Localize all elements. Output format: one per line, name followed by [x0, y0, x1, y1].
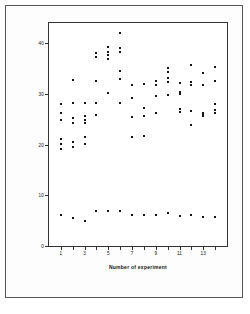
data-point: [214, 109, 216, 111]
x-axis-tick-label: 9: [154, 251, 157, 256]
y-axis-tick-label: 30: [38, 91, 44, 96]
data-point: [143, 83, 145, 85]
x-axis-tick: [132, 246, 133, 250]
data-point: [84, 102, 86, 104]
y-axis-tick: [45, 246, 49, 247]
data-point: [84, 115, 86, 117]
data-point: [119, 210, 121, 212]
x-axis-tick: [96, 246, 97, 250]
data-point: [214, 216, 216, 218]
figure: Na,K−ATPase (μmol/min · mg protein) 0102…: [0, 0, 250, 314]
y-axis-tick-label: 20: [38, 142, 44, 147]
data-point: [190, 110, 192, 112]
data-point: [190, 124, 192, 126]
data-point: [202, 84, 204, 86]
data-point: [214, 103, 216, 105]
data-point: [155, 95, 157, 97]
data-point: [72, 102, 74, 104]
data-point: [72, 122, 74, 124]
data-point: [190, 214, 192, 216]
data-point: [214, 66, 216, 68]
data-point: [95, 52, 97, 54]
y-axis-tick: [45, 195, 49, 196]
data-point: [143, 107, 145, 109]
data-point: [107, 54, 109, 56]
data-point: [167, 77, 169, 79]
data-point: [179, 93, 181, 95]
x-axis-tick: [144, 246, 145, 250]
data-point: [131, 116, 133, 118]
data-point: [72, 79, 74, 81]
data-point: [107, 210, 109, 212]
y-axis-tick: [45, 94, 49, 95]
data-point: [107, 92, 109, 94]
data-point: [131, 136, 133, 138]
data-point: [214, 112, 216, 114]
data-point: [60, 143, 62, 145]
x-axis-tick-label: 11: [177, 251, 182, 256]
x-axis-tick: [61, 246, 62, 250]
x-axis-tick-label: 13: [201, 251, 207, 256]
data-point: [107, 51, 109, 53]
data-point: [95, 80, 97, 82]
x-axis-tick: [180, 246, 181, 250]
data-point: [72, 146, 74, 148]
x-axis-tick-label: 5: [107, 251, 110, 256]
x-axis-tick: [108, 246, 109, 250]
x-axis-tick: [215, 246, 216, 250]
data-point: [60, 214, 62, 216]
data-point: [95, 102, 97, 104]
data-point: [60, 148, 62, 150]
data-point: [119, 102, 121, 104]
x-axis-tick: [203, 246, 204, 250]
data-point: [95, 56, 97, 58]
plot-area: 010203040135791113: [49, 23, 227, 246]
y-axis-tick: [45, 145, 49, 146]
x-axis-tick-label: 7: [131, 251, 134, 256]
data-point: [143, 115, 145, 117]
x-axis-tick: [168, 246, 169, 250]
data-point: [167, 212, 169, 214]
data-point: [155, 214, 157, 216]
x-axis-tick: [85, 246, 86, 250]
data-point: [72, 117, 74, 119]
data-point: [179, 215, 181, 217]
plot-frame: 010203040135791113: [48, 22, 228, 247]
x-axis-tick: [156, 246, 157, 250]
data-point: [72, 141, 74, 143]
data-point: [179, 111, 181, 113]
data-point: [167, 71, 169, 73]
data-point: [190, 84, 192, 86]
data-point: [119, 51, 121, 53]
data-point: [167, 81, 169, 83]
data-point: [167, 94, 169, 96]
data-point: [131, 97, 133, 99]
data-point: [155, 112, 157, 114]
data-point: [214, 80, 216, 82]
data-point: [131, 84, 133, 86]
x-axis-label: Number of experiment: [48, 264, 228, 270]
x-axis-tick: [191, 246, 192, 250]
x-axis-tick-label: 1: [59, 251, 62, 256]
data-point: [190, 64, 192, 66]
data-point: [119, 47, 121, 49]
data-point: [60, 119, 62, 121]
x-axis-tick: [73, 246, 74, 250]
y-axis-tick-label: 10: [38, 193, 44, 198]
data-point: [131, 214, 133, 216]
data-point: [95, 114, 97, 116]
x-axis-tick: [120, 246, 121, 250]
data-point: [119, 32, 121, 34]
y-axis-tick-label: 0: [41, 244, 44, 249]
data-point: [155, 80, 157, 82]
data-point: [84, 220, 86, 222]
data-point: [202, 115, 204, 117]
data-point: [84, 136, 86, 138]
data-point: [107, 46, 109, 48]
data-point: [143, 214, 145, 216]
data-point: [119, 78, 121, 80]
data-point: [202, 216, 204, 218]
data-point: [60, 112, 62, 114]
data-point: [84, 122, 86, 124]
data-point: [155, 84, 157, 86]
